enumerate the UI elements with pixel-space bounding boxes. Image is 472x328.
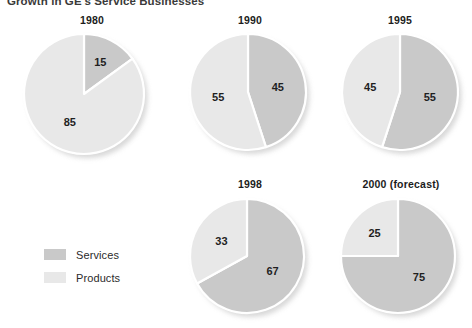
slice-value-label: 55 (212, 91, 224, 103)
slice-value-label: 15 (94, 56, 106, 68)
slice-value-label: 55 (424, 91, 436, 103)
pie-chart-1990: 4555 (180, 30, 320, 160)
legend-item-products: Products (44, 268, 120, 287)
slice-value-label: 45 (272, 81, 284, 93)
legend-swatch-services (44, 249, 66, 260)
pie-label-1995: 1995 (330, 14, 470, 26)
pie-label-2000: 2000 (forecast) (330, 178, 472, 190)
slice-value-label: 75 (413, 271, 425, 283)
pie-label-1980: 1980 (18, 14, 166, 26)
pie-chart-1998: 6733 (180, 194, 320, 326)
slice-value-label: 85 (64, 116, 76, 128)
slice-value-label: 45 (364, 81, 376, 93)
pie-chart-2000: 7525 (330, 194, 472, 326)
legend-label-products: Products (76, 272, 120, 284)
pie-panel-1998: 1998 6733 (180, 178, 320, 328)
pie-panel-1980: 1980 1585 (18, 14, 166, 162)
pie-chart-1980: 1585 (18, 30, 166, 160)
slice-value-label: 25 (368, 227, 380, 239)
slice-value-label: 67 (266, 265, 278, 277)
slice-value-label: 33 (215, 235, 227, 247)
legend-swatch-products (44, 272, 66, 283)
legend: Services Products (44, 245, 120, 291)
pie-panel-1995: 1995 5545 (330, 14, 470, 162)
page-title: Growth in GE's Service Businesses (7, 0, 204, 7)
legend-item-services: Services (44, 245, 120, 264)
pie-chart-1995: 5545 (330, 30, 470, 160)
legend-label-services: Services (76, 249, 119, 261)
pie-panel-2000: 2000 (forecast) 7525 (330, 178, 472, 328)
pie-label-1990: 1990 (180, 14, 320, 26)
pie-label-1998: 1998 (180, 178, 320, 190)
pie-panel-1990: 1990 4555 (180, 14, 320, 162)
